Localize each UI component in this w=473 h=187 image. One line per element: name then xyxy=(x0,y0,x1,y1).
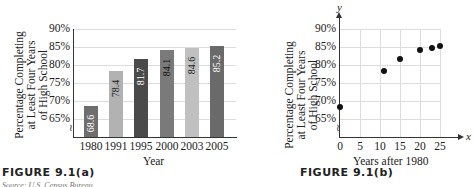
data-point xyxy=(337,104,343,110)
x-axis-arrow-icon xyxy=(458,134,464,140)
y-tick: 80% xyxy=(40,58,70,70)
gridline xyxy=(340,119,440,120)
data-point xyxy=(381,68,387,74)
y-axis xyxy=(339,16,340,138)
y-tick: 90% xyxy=(306,22,336,34)
bar-value-label: 68.6 xyxy=(85,115,96,133)
gridline-v xyxy=(420,29,421,138)
y-tick: 90% xyxy=(40,22,70,34)
figure-a-x-axis-label: Year xyxy=(143,155,164,167)
data-point xyxy=(429,45,435,51)
gridline-v xyxy=(380,29,381,138)
bar-value-label: 78.4 xyxy=(110,80,121,98)
figure-b-caption: FIGURE 9.1(b) xyxy=(300,166,393,179)
y-tick: 70% xyxy=(40,94,70,106)
data-point xyxy=(417,47,423,53)
gridline xyxy=(340,47,440,48)
bar-value-label: 84.6 xyxy=(186,57,197,75)
data-point xyxy=(397,56,403,62)
bar-value-label: 84.1 xyxy=(161,59,172,77)
x-axis xyxy=(339,137,459,138)
y-axis xyxy=(73,29,74,138)
figure-a-caption: FIGURE 9.1(a) xyxy=(2,166,95,179)
gridline-v xyxy=(400,29,401,138)
axis-break-icon: ≀ xyxy=(336,123,340,133)
x-axis xyxy=(73,137,237,138)
y-tick: 75% xyxy=(306,76,336,88)
gridline xyxy=(340,65,440,66)
y-tick: 65% xyxy=(40,112,70,124)
y-tick: 80% xyxy=(306,58,336,70)
bar-value-label: 81.7 xyxy=(135,68,146,86)
data-point xyxy=(437,43,443,49)
gridline xyxy=(340,29,440,30)
figure-a-source: Source: U.S. Census Bureau xyxy=(2,181,93,187)
x-tick: 25 xyxy=(425,140,455,152)
gridline xyxy=(340,83,440,84)
y-tick: 65% xyxy=(306,112,336,124)
gridline-v xyxy=(360,29,361,138)
y-tick: 85% xyxy=(306,40,336,52)
x-tick: 2005 xyxy=(202,140,232,152)
y-tick: 70% xyxy=(306,94,336,106)
y-axis-arrow-icon xyxy=(336,12,342,18)
bar-value-label: 85.2 xyxy=(211,55,222,73)
axis-break-icon: ≀ xyxy=(69,123,73,133)
x-axis-letter: x xyxy=(466,130,471,142)
y-tick: 85% xyxy=(40,40,70,52)
y-tick: 75% xyxy=(40,76,70,88)
gridline xyxy=(340,101,440,102)
gridline xyxy=(74,29,236,30)
